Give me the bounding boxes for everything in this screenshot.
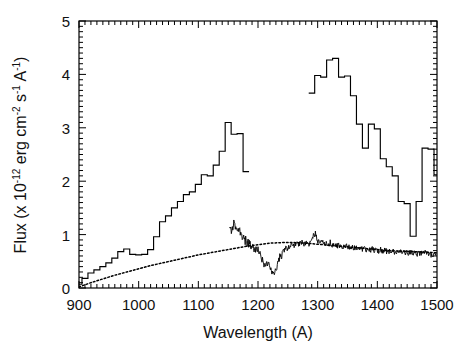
y-title-prefix: Flux (x 10	[12, 183, 29, 253]
y-tick-label: 3	[62, 120, 70, 137]
y-tick-label: 2	[62, 173, 70, 190]
x-axis-title: Wavelength (A)	[203, 324, 313, 341]
y-title-mid1: erg cm	[12, 115, 29, 168]
y-tick-label: 4	[62, 66, 70, 83]
y-tick-label: 1	[62, 227, 70, 244]
x-tick-label: 1200	[241, 296, 274, 313]
spectrum-figure: 900100011001200130014001500 012345 Wavel…	[0, 0, 471, 350]
y-tick-label: 0	[62, 280, 70, 297]
x-tick-label: 900	[66, 296, 91, 313]
x-tick-label: 1100	[182, 296, 214, 313]
y-title-mid3: A	[12, 71, 29, 86]
y-title-suffix: )	[12, 57, 29, 62]
x-tick-label: 1300	[301, 296, 334, 313]
y-tick-label: 5	[62, 13, 70, 30]
x-tick-label: 1000	[122, 296, 155, 313]
x-tick-label: 1500	[420, 296, 453, 313]
x-tick-label: 1400	[361, 296, 394, 313]
y-title-exp1: -12	[11, 168, 22, 183]
y-title-mid2: s	[12, 94, 29, 106]
plot-canvas: 900100011001200130014001500 012345 Wavel…	[0, 0, 471, 350]
